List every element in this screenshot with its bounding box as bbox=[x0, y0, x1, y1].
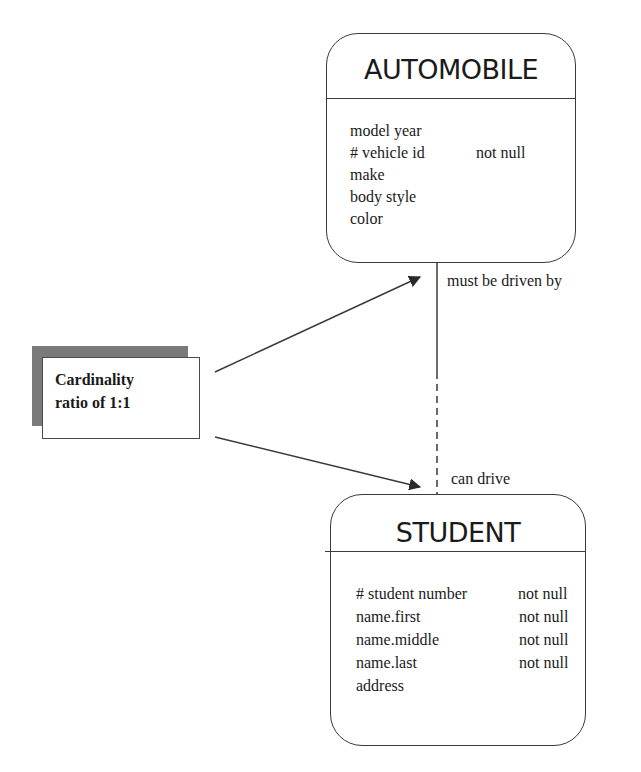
attribute-constraint: not null bbox=[476, 142, 525, 164]
entity-divider bbox=[326, 98, 576, 99]
attribute-row: make bbox=[350, 164, 385, 186]
attribute-row: name.middle not null bbox=[356, 629, 586, 651]
entity-student[interactable]: STUDENT # student number not null name.f… bbox=[330, 494, 586, 746]
attribute-constraint: not null bbox=[519, 606, 568, 628]
annotation-text: Cardinality ratio of 1:1 bbox=[55, 368, 195, 414]
entity-title: AUTOMOBILE bbox=[327, 54, 575, 85]
arrow-to-student bbox=[215, 437, 420, 487]
annotation-cardinality-note[interactable]: Cardinality ratio of 1:1 bbox=[42, 357, 200, 439]
attribute-row: # student number not null bbox=[356, 583, 586, 605]
attribute-name: color bbox=[350, 210, 383, 227]
annotation-line-1: Cardinality bbox=[55, 368, 195, 391]
attribute-name: model year bbox=[350, 122, 422, 139]
attribute-constraint: not null bbox=[518, 583, 567, 605]
attribute-constraint: not null bbox=[519, 652, 568, 674]
attribute-name: # student number bbox=[356, 585, 467, 602]
attribute-row: body style bbox=[350, 186, 416, 208]
attribute-row: address bbox=[356, 675, 404, 697]
er-diagram-canvas: AUTOMOBILE model year # vehicle id not n… bbox=[0, 0, 641, 772]
attribute-name: body style bbox=[350, 188, 416, 205]
attribute-row: color bbox=[350, 208, 383, 230]
attribute-name: name.first bbox=[356, 608, 420, 625]
attribute-name: make bbox=[350, 166, 385, 183]
attribute-row: name.last not null bbox=[356, 652, 586, 674]
attribute-name: address bbox=[356, 677, 404, 694]
attribute-row: # vehicle id not null bbox=[350, 142, 570, 164]
relationship-label-can-drive: can drive bbox=[451, 470, 510, 488]
arrow-to-automobile bbox=[215, 277, 420, 372]
annotation-line-2: ratio of 1:1 bbox=[55, 391, 195, 414]
attribute-name: name.last bbox=[356, 654, 417, 671]
entity-divider bbox=[325, 551, 586, 552]
entity-title: STUDENT bbox=[331, 517, 585, 548]
attribute-row: model year bbox=[350, 120, 422, 142]
entity-automobile[interactable]: AUTOMOBILE model year # vehicle id not n… bbox=[326, 33, 576, 263]
attribute-row: name.first not null bbox=[356, 606, 586, 628]
relationship-label-must-be-driven-by: must be driven by bbox=[447, 272, 562, 290]
attribute-name: # vehicle id bbox=[350, 144, 425, 161]
attribute-constraint: not null bbox=[519, 629, 568, 651]
attribute-name: name.middle bbox=[356, 631, 439, 648]
